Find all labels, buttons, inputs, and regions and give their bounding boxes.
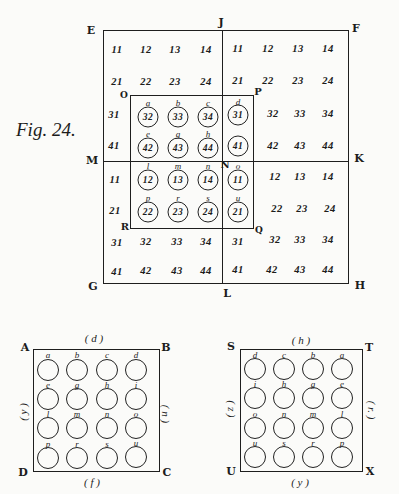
grid-cell: 24 <box>322 76 334 87</box>
circle <box>331 358 353 380</box>
corner-label-T: T <box>365 342 373 353</box>
side-label-right: ( n ) <box>160 405 171 423</box>
circle <box>37 359 59 381</box>
grid-cell: 41 <box>232 265 244 276</box>
grid-cell: 44 <box>322 141 334 152</box>
side-label-top: ( h ) <box>292 335 310 346</box>
circled-cell: 22 <box>138 202 159 223</box>
corner-label-J: J <box>218 17 223 28</box>
grid-cell: 34 <box>322 109 334 120</box>
grid-cell: 42 <box>267 141 279 152</box>
circled-cell: 34 <box>198 107 219 128</box>
side-label-left: ( z ) <box>224 400 235 417</box>
grid-cell: 44 <box>200 266 212 277</box>
grid-cell: 12 <box>140 45 152 56</box>
grid-cell: 43 <box>294 141 306 152</box>
corner-label-P: P <box>254 87 262 97</box>
corner-label-G: G <box>88 281 97 292</box>
grid-cell: 42 <box>266 265 278 276</box>
circle <box>331 446 353 468</box>
corner-label-A: A <box>21 342 30 353</box>
circled-cell: 13 <box>168 170 189 191</box>
circled-cell: 42 <box>138 138 159 159</box>
corner-label-L: L <box>223 288 231 299</box>
circle <box>331 387 353 409</box>
circle <box>273 358 295 380</box>
grid-cell: 13 <box>169 45 181 56</box>
corner-label-S: S <box>227 341 235 352</box>
circled-cell: 43 <box>168 138 189 159</box>
grid-cell: 14 <box>322 172 334 183</box>
grid-cell: 31 <box>111 238 123 249</box>
grid-cell: 32 <box>267 109 279 120</box>
circle <box>66 447 88 469</box>
circled-cell: 12 <box>138 170 159 191</box>
grid-cell: 21 <box>109 206 121 217</box>
corner-label-H: H <box>355 280 365 291</box>
circle <box>273 446 295 468</box>
side-label-left: ( y ) <box>18 403 29 421</box>
circle <box>244 417 266 439</box>
circle <box>66 388 88 410</box>
corner-label-Q: Q <box>255 226 263 235</box>
corner-label-B: B <box>161 342 170 353</box>
grid-cell: 33 <box>294 235 306 246</box>
circle <box>37 417 59 439</box>
circled-cell: 14 <box>198 170 219 191</box>
grid-cell: 33 <box>171 237 183 248</box>
side-label-bottom: ( f ) <box>84 477 100 488</box>
grid-cell: 24 <box>200 77 212 88</box>
circle <box>125 446 147 468</box>
grid-cell: 33 <box>294 109 306 120</box>
grid-cell: 13 <box>292 44 304 55</box>
circle <box>96 359 118 381</box>
grid-cell: 22 <box>140 77 152 88</box>
circle <box>273 417 295 439</box>
grid-cell: 14 <box>200 45 212 56</box>
grid-cell: 41 <box>108 141 120 152</box>
circle <box>37 388 59 410</box>
corner-label-N: N <box>220 160 229 170</box>
circle <box>125 359 147 381</box>
grid-cell: 22 <box>271 204 283 215</box>
corner-label-C: C <box>163 467 172 478</box>
corner-label-R: R <box>121 222 129 232</box>
circle <box>125 417 147 439</box>
grid-cell: 24 <box>324 204 336 215</box>
grid-cell: 23 <box>169 77 181 88</box>
circle <box>125 388 147 410</box>
circle <box>244 387 266 409</box>
circle <box>302 358 324 380</box>
grid-cell: 21 <box>111 77 123 88</box>
corner-label-F: F <box>352 23 360 34</box>
side-label-right: ( r. ) <box>366 401 377 420</box>
circled-cell: 11 <box>228 170 249 191</box>
grid-cell: 34 <box>322 235 334 246</box>
corner-label-K: K <box>354 153 364 164</box>
grid-cell: 31 <box>232 237 244 248</box>
circle <box>96 388 118 410</box>
grid-cell: 14 <box>322 44 334 55</box>
grid-cell: 44 <box>322 265 334 276</box>
circle <box>96 417 118 439</box>
circled-cell: 44 <box>198 138 219 159</box>
circled-cell: 21 <box>228 202 249 223</box>
circled-cell: 33 <box>168 107 189 128</box>
corner-label-E: E <box>87 25 95 36</box>
circle <box>96 447 118 469</box>
grid-cell: 23 <box>292 76 304 87</box>
circle <box>273 387 295 409</box>
circled-cell: 32 <box>138 107 159 128</box>
grid-cell: 31 <box>108 110 120 121</box>
grid-cell: 12 <box>269 172 281 183</box>
side-label-top: ( d ) <box>85 333 103 344</box>
corner-label-O: O <box>120 91 128 100</box>
grid-cell: 23 <box>296 204 308 215</box>
circle <box>244 446 266 468</box>
circle <box>66 359 88 381</box>
corner-label-D: D <box>18 467 28 478</box>
circle <box>331 417 353 439</box>
corner-label-U: U <box>226 466 236 477</box>
circle <box>244 358 266 380</box>
circle <box>66 417 88 439</box>
